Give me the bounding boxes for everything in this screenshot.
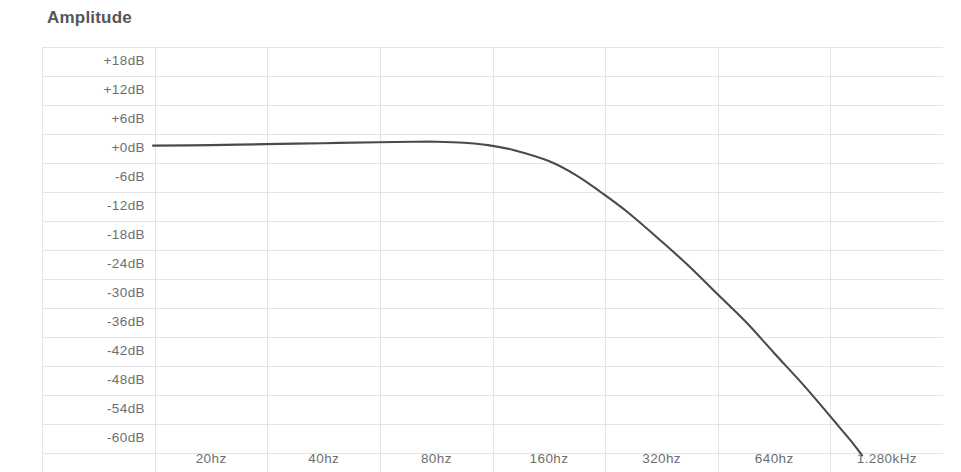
amplitude-chart: Amplitude +18dB+12dB+6dB+0dB-6dB-12dB-18… xyxy=(0,0,961,472)
x-tick-label: 160hz xyxy=(493,451,606,466)
chart-title: Amplitude xyxy=(47,8,132,28)
x-tick-label: 320hz xyxy=(605,451,718,466)
x-tick-label: 20hz xyxy=(155,451,268,466)
x-tick-label: 1.280kHz xyxy=(830,451,943,466)
x-tick-label: 640hz xyxy=(718,451,831,466)
x-axis-tick-labels: 20hz40hz80hz160hz320hz640hz1.280kHz xyxy=(42,47,943,472)
x-tick-label: 80hz xyxy=(380,451,493,466)
x-tick-label: 40hz xyxy=(267,451,380,466)
